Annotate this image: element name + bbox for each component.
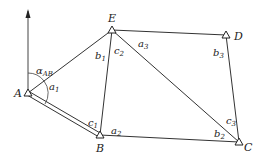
angle-label-c3: c3 (226, 115, 237, 128)
point-label-B: B (95, 142, 104, 155)
edge-E-B (100, 30, 112, 135)
angle-label-a1: a1 (49, 81, 59, 94)
angle-label-a3: a3 (138, 38, 149, 51)
angle-label-c1: c1 (88, 117, 98, 130)
north-arrow-head-icon (26, 9, 31, 18)
edge-A-E (28, 30, 112, 93)
point-label-A: A (13, 87, 22, 100)
traverse-diagram: A E D B C αAB a1 b1 c2 a3 b3 c1 a2 b2 c3 (0, 0, 261, 163)
angle-label-b3: b3 (213, 47, 224, 60)
station-E-icon (108, 26, 116, 33)
point-label-C: C (244, 141, 253, 154)
angle-label-b2: b2 (214, 128, 225, 141)
edge-A-B-outer1 (27, 95, 99, 137)
diagram-svg: A E D B C αAB a1 b1 c2 a3 b3 c1 a2 b2 c3 (0, 0, 261, 163)
angle-label-c2: c2 (114, 45, 125, 58)
edge-E-D (112, 30, 226, 35)
station-B-icon (96, 131, 104, 138)
point-label-E: E (107, 12, 116, 25)
edge-E-C (112, 30, 239, 142)
point-label-D: D (233, 30, 243, 43)
angle-label-b1: b1 (95, 50, 106, 63)
